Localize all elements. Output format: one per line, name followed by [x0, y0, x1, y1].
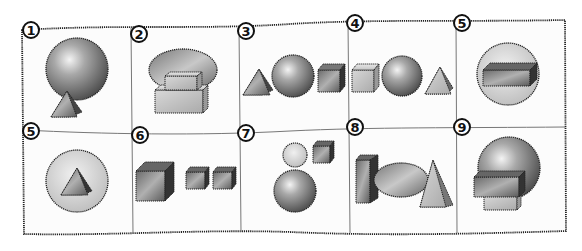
panel-number-4: 4 [346, 14, 364, 32]
cube-shape [352, 64, 379, 92]
panel-number-8: 8 [346, 118, 364, 136]
panel-number-6: 6 [131, 126, 149, 144]
panel-number-2: 2 [130, 25, 148, 43]
panel-2 [149, 49, 217, 113]
ellipse-disc-shape [374, 163, 428, 197]
cube-small-shape [313, 141, 334, 163]
cube-large-shape [136, 162, 174, 201]
sphere-shape [272, 55, 314, 97]
sphere-shape [382, 56, 422, 96]
sphere-large-shape [274, 170, 316, 212]
cube-small-shape [186, 167, 209, 189]
rectangular-prism-upper-shape [474, 171, 525, 197]
panel-5-top [477, 43, 539, 105]
rectangular-prism-shape [483, 63, 537, 86]
sphere-small-shape [283, 143, 307, 167]
panel-number-7: 7 [237, 124, 255, 142]
panel-number-5-top: 5 [453, 14, 471, 32]
rectangular-prism-upper [165, 72, 202, 90]
cube-small-shape [213, 167, 236, 189]
cube-shape [318, 64, 345, 92]
panel-number-9: 9 [453, 118, 471, 136]
panel-number-1: 1 [22, 21, 40, 39]
figure-canvas [0, 0, 582, 251]
panel-5-bottom [46, 150, 108, 212]
panel-number-3: 3 [237, 22, 255, 40]
shape-panels-figure: 1 2 3 4 5 5 6 7 8 9 [0, 0, 582, 251]
sphere-shape [46, 38, 108, 100]
panel-number-5-bottom: 5 [22, 122, 40, 140]
